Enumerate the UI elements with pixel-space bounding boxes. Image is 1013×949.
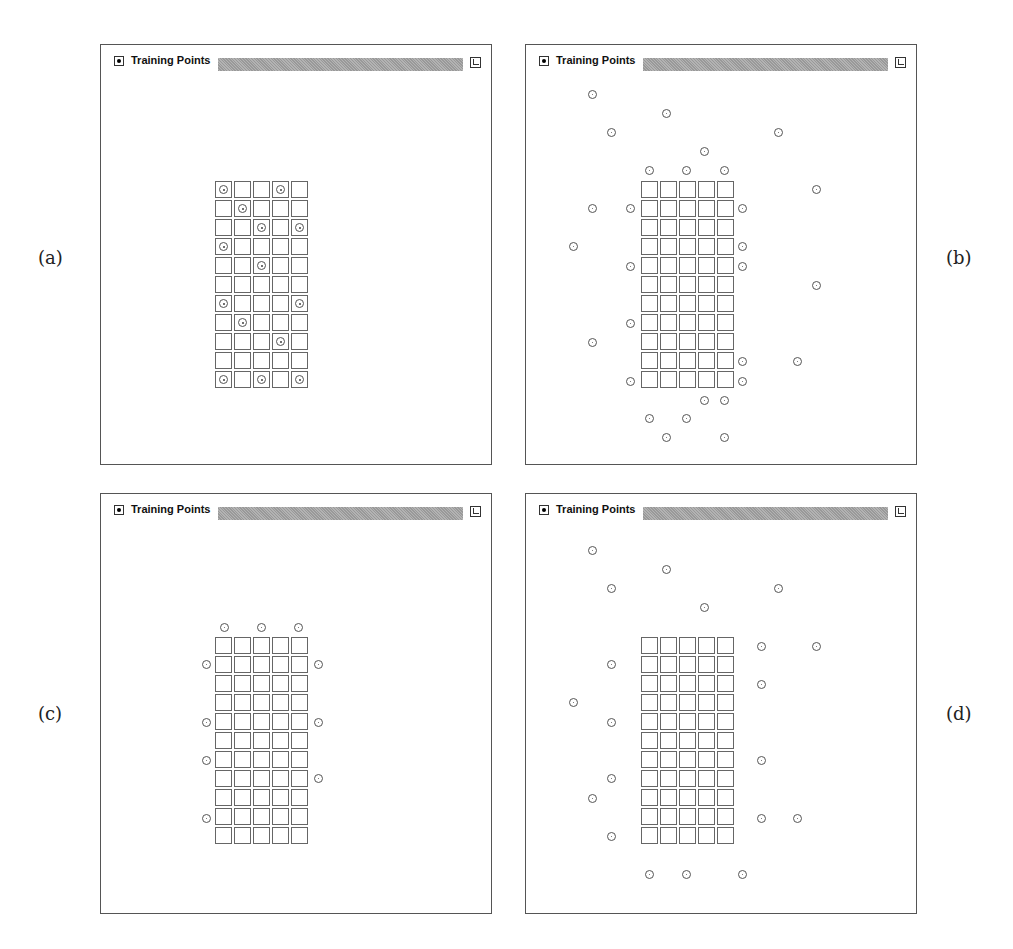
grid-cell[interactable]: [641, 352, 658, 369]
training-point-icon[interactable]: [757, 756, 766, 765]
grid-cell[interactable]: [641, 295, 658, 312]
grid-cell[interactable]: [234, 751, 251, 768]
grid-cell[interactable]: [291, 751, 308, 768]
grid-cell[interactable]: [679, 295, 696, 312]
grid-cell[interactable]: [717, 333, 734, 350]
training-point-icon[interactable]: [276, 185, 285, 194]
grid-cell[interactable]: [641, 656, 658, 673]
grid-cell[interactable]: [641, 732, 658, 749]
training-point-icon[interactable]: [626, 319, 635, 328]
grid-cell[interactable]: [272, 637, 289, 654]
grid-cell[interactable]: [717, 238, 734, 255]
grid-cell[interactable]: [679, 333, 696, 350]
grid-cell[interactable]: [253, 314, 270, 331]
grid-cell[interactable]: [234, 333, 251, 350]
grid-cell[interactable]: [717, 314, 734, 331]
grid-cell[interactable]: [291, 656, 308, 673]
training-point-icon[interactable]: [588, 204, 597, 213]
training-point-icon[interactable]: [569, 698, 578, 707]
title-bar-drag-handle[interactable]: [643, 507, 888, 520]
grid-cell[interactable]: [272, 314, 289, 331]
grid-cell[interactable]: [641, 694, 658, 711]
training-point-icon[interactable]: [682, 414, 691, 423]
grid-cell[interactable]: [272, 713, 289, 730]
grid-cell[interactable]: [679, 656, 696, 673]
grid-cell[interactable]: [679, 751, 696, 768]
grid-cell[interactable]: [272, 789, 289, 806]
grid-cell[interactable]: [717, 200, 734, 217]
grid-cell[interactable]: [698, 238, 715, 255]
training-point-icon[interactable]: [626, 377, 635, 386]
training-point-icon[interactable]: [607, 584, 616, 593]
grid-cell[interactable]: [641, 314, 658, 331]
training-point-icon[interactable]: [757, 680, 766, 689]
grid-cell[interactable]: [660, 808, 677, 825]
grid-cell[interactable]: [215, 808, 232, 825]
grid-cell[interactable]: [253, 694, 270, 711]
grid-cell[interactable]: [215, 200, 232, 217]
grid-cell[interactable]: [679, 675, 696, 692]
grid-cell[interactable]: [679, 238, 696, 255]
grid-cell[interactable]: [717, 352, 734, 369]
grid-cell[interactable]: [698, 314, 715, 331]
grid-cell[interactable]: [215, 827, 232, 844]
grid-cell[interactable]: [641, 713, 658, 730]
training-point-icon[interactable]: [645, 414, 654, 423]
grid-cell[interactable]: [215, 314, 232, 331]
grid-cell[interactable]: [679, 219, 696, 236]
training-point-icon[interactable]: [774, 584, 783, 593]
grid-cell[interactable]: [641, 770, 658, 787]
grid-cell[interactable]: [660, 713, 677, 730]
grid-cell[interactable]: [291, 675, 308, 692]
grid-cell[interactable]: [291, 637, 308, 654]
grid-cell[interactable]: [698, 732, 715, 749]
grid-cell[interactable]: [291, 732, 308, 749]
radio-button-icon[interactable]: [114, 56, 124, 66]
training-point-icon[interactable]: [757, 814, 766, 823]
grid-cell[interactable]: [717, 713, 734, 730]
grid-cell[interactable]: [253, 808, 270, 825]
training-point-icon[interactable]: [662, 433, 671, 442]
grid-cell[interactable]: [253, 675, 270, 692]
grid-cell[interactable]: [641, 827, 658, 844]
grid-cell[interactable]: [272, 732, 289, 749]
grid-cell[interactable]: [215, 694, 232, 711]
training-point-icon[interactable]: [812, 642, 821, 651]
training-point-icon[interactable]: [588, 546, 597, 555]
grid-cell[interactable]: [679, 713, 696, 730]
grid-cell[interactable]: [272, 675, 289, 692]
grid-cell[interactable]: [253, 656, 270, 673]
training-point-icon[interactable]: [774, 128, 783, 137]
training-point-icon[interactable]: [569, 242, 578, 251]
training-point-icon[interactable]: [700, 396, 709, 405]
training-point-icon[interactable]: [662, 565, 671, 574]
training-point-icon[interactable]: [257, 261, 266, 270]
training-point-icon[interactable]: [588, 794, 597, 803]
grid-cell[interactable]: [234, 352, 251, 369]
training-point-icon[interactable]: [295, 223, 304, 232]
grid-cell[interactable]: [698, 352, 715, 369]
grid-cell[interactable]: [679, 276, 696, 293]
grid-cell[interactable]: [698, 333, 715, 350]
grid-cell[interactable]: [698, 257, 715, 274]
grid-cell[interactable]: [234, 808, 251, 825]
grid-cell[interactable]: [679, 694, 696, 711]
training-point-icon[interactable]: [645, 166, 654, 175]
grid-cell[interactable]: [660, 314, 677, 331]
grid-cell[interactable]: [698, 827, 715, 844]
training-point-icon[interactable]: [682, 166, 691, 175]
grid-cell[interactable]: [272, 827, 289, 844]
training-point-icon[interactable]: [607, 660, 616, 669]
grid-cell[interactable]: [679, 789, 696, 806]
training-point-icon[interactable]: [738, 357, 747, 366]
grid-cell[interactable]: [215, 276, 232, 293]
title-bar-drag-handle[interactable]: [643, 58, 888, 71]
grid-cell[interactable]: [272, 200, 289, 217]
training-point-icon[interactable]: [238, 204, 247, 213]
radio-button-icon[interactable]: [539, 56, 549, 66]
grid-cell[interactable]: [253, 352, 270, 369]
grid-cell[interactable]: [679, 732, 696, 749]
training-point-icon[interactable]: [793, 814, 802, 823]
grid-cell[interactable]: [641, 371, 658, 388]
window-resize-icon[interactable]: [895, 57, 906, 68]
